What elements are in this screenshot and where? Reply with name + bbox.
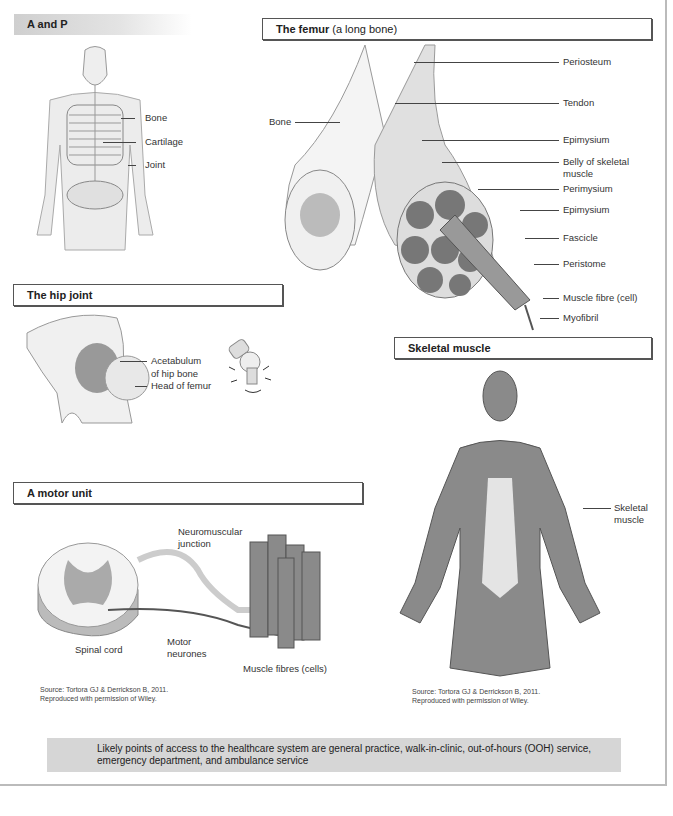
label-bone: Bone — [145, 112, 167, 124]
label-acetabulum: Acetabulum — [151, 355, 201, 367]
skeletal-muscle-header: Skeletal muscle — [394, 337, 652, 359]
muscle-body-illustration — [400, 368, 600, 676]
label-periosteum: Periosteum — [563, 56, 611, 68]
label-myofibril: Myofibril — [563, 312, 598, 324]
label-spinal-cord: Spinal cord — [75, 644, 123, 656]
label-peristome: Peristome — [563, 258, 606, 270]
label-joint: Joint — [145, 159, 165, 171]
label-tendon: Tendon — [563, 97, 594, 109]
label-bone-femur: Bone — [269, 116, 291, 128]
label-belly-2: muscle — [563, 168, 593, 180]
source-credit-motor-2: Reproduced with permission of Wiley. — [40, 694, 157, 703]
label-nmj-2: junction — [178, 538, 211, 550]
label-epimysium-2: Epimysium — [563, 204, 609, 216]
label-muscle-fibres: Muscle fibres (cells) — [243, 663, 327, 675]
femur-muscle-illustration — [275, 45, 555, 330]
label-nmj: Neuromuscular — [178, 526, 242, 538]
ball-socket-icon — [225, 340, 275, 395]
skeleton-illustration — [35, 45, 155, 250]
label-perimysium: Perimysium — [563, 183, 613, 195]
source-credit-muscle-2: Reproduced with permission of Wiley. — [412, 696, 529, 705]
label-motor: Motor — [167, 636, 191, 648]
hip-joint-illustration — [22, 313, 152, 423]
label-neurones: neurones — [167, 648, 207, 660]
label-belly: Belly of skeletal — [563, 156, 629, 168]
motor-unit-header: A motor unit — [13, 482, 363, 504]
source-credit-muscle: Source: Tortora GJ & Derrickson B, 2011. — [412, 687, 540, 696]
femur-header: The femur (a long bone) — [262, 18, 652, 40]
label-head-of-femur: Head of femur — [151, 380, 211, 392]
label-skeletal: Skeletal — [614, 502, 648, 514]
access-points-note: Likely points of access to the healthcar… — [47, 738, 621, 772]
label-epimysium-1: Epimysium — [563, 134, 609, 146]
label-muscle: muscle — [614, 514, 644, 526]
a-and-p-header: A and P — [14, 14, 192, 35]
label-muscle-fibre: Muscle fibre (cell) — [563, 292, 637, 304]
source-credit-motor: Source: Tortora GJ & Derrickson B, 2011. — [40, 685, 168, 694]
label-acetabulum-2: of hip bone — [151, 368, 198, 380]
label-fascicle: Fascicle — [563, 232, 598, 244]
document-page: A and P Bone Cartilage Joint The femur (… — [0, 0, 667, 786]
note-line-2: emergency department, and ambulance serv… — [97, 755, 621, 767]
note-line-1: Likely points of access to the healthcar… — [97, 743, 621, 755]
label-cartilage: Cartilage — [145, 136, 183, 148]
hip-joint-header: The hip joint — [13, 284, 283, 306]
